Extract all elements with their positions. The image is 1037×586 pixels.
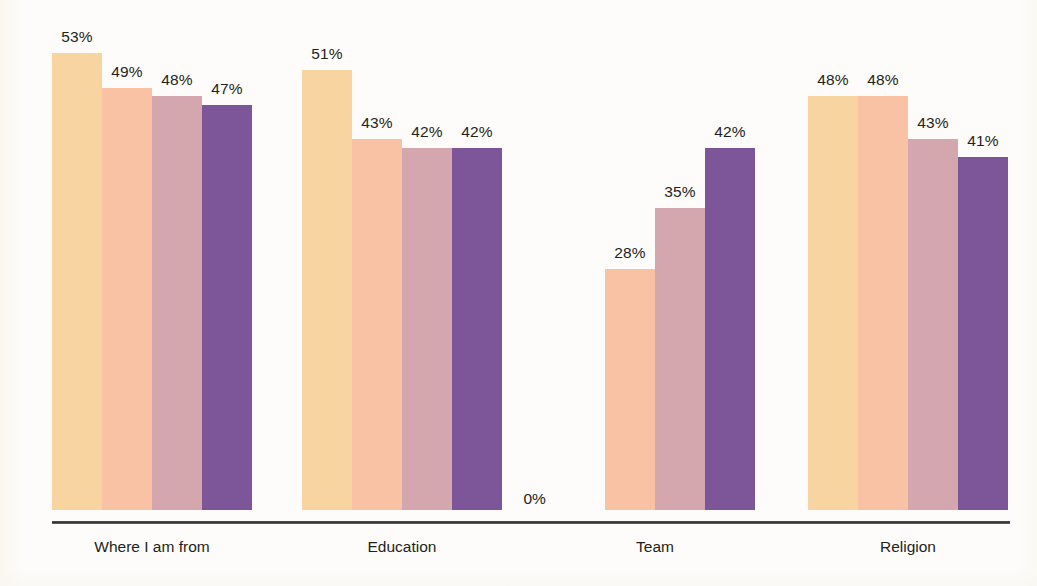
bar-rect[interactable]: [908, 139, 958, 510]
category-label: Where I am from: [52, 538, 252, 556]
plot-area: 53%49%48%47%Where I am from51%43%42%42%E…: [0, 0, 1037, 586]
bar-rect[interactable]: [858, 96, 908, 510]
bar-value-label: 42%: [714, 123, 745, 141]
bar-rect[interactable]: [402, 148, 452, 510]
bar-value-label: 28%: [614, 244, 645, 262]
bar-rect[interactable]: [705, 148, 755, 510]
bar-value-label: 47%: [211, 80, 242, 98]
bar-value-label: 43%: [361, 114, 392, 132]
bar-value-label: 41%: [967, 132, 998, 150]
bar-value-label: 43%: [917, 114, 948, 132]
bar-rect[interactable]: [152, 96, 202, 510]
bar-rect[interactable]: [655, 208, 705, 510]
bar-rect[interactable]: [202, 105, 252, 510]
bar-group: 48%48%43%41%: [808, 60, 1008, 510]
bar-chart: 53%49%48%47%Where I am from51%43%42%42%E…: [0, 0, 1037, 586]
bar-rect[interactable]: [102, 88, 152, 510]
bar-value-label: 51%: [311, 45, 342, 63]
bar-value-label: 42%: [461, 123, 492, 141]
bar-rect[interactable]: [958, 157, 1008, 510]
bar-rect[interactable]: [605, 269, 655, 510]
bar-value-label: 48%: [867, 71, 898, 89]
bar-value-label: 35%: [664, 183, 695, 201]
category-label: Religion: [808, 538, 1008, 556]
bar-group: 0%28%35%42%: [555, 60, 755, 510]
category-label: Education: [302, 538, 502, 556]
bar-value-label: 49%: [111, 63, 142, 81]
bar-group: 51%43%42%42%: [302, 60, 502, 510]
bar-rect[interactable]: [452, 148, 502, 510]
bar-rect[interactable]: [52, 53, 102, 510]
x-axis-line: [52, 521, 1010, 524]
bar-value-label: 48%: [817, 71, 848, 89]
bar-rect[interactable]: [302, 70, 352, 510]
bar-rect[interactable]: [352, 139, 402, 510]
bar-value-label: 0%: [523, 490, 546, 508]
bar-value-label: 53%: [61, 28, 92, 46]
bar-rect[interactable]: [808, 96, 858, 510]
bar-value-label: 42%: [411, 123, 442, 141]
bar-group: 53%49%48%47%: [52, 60, 252, 510]
category-label: Team: [555, 538, 755, 556]
bar-value-label: 48%: [161, 71, 192, 89]
